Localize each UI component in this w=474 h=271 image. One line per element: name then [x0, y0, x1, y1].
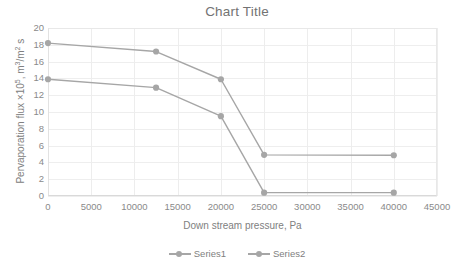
series-line [48, 43, 394, 155]
data-point-marker [153, 85, 159, 91]
legend-item-series2[interactable]: Series2 [248, 248, 305, 259]
chart-container: Chart Title 02468101214161820 0500010000… [0, 0, 474, 271]
data-point-marker [45, 40, 51, 46]
x-axis-tick-labels: 0500010000150002000025000300003500040000… [48, 201, 437, 215]
chart-title: Chart Title [0, 4, 474, 19]
y-axis-title: Pervaporation flux ×105, m3/m2 s [14, 16, 26, 206]
plot-area [48, 28, 437, 196]
data-point-marker [218, 113, 224, 119]
gridline-vertical [437, 28, 438, 196]
chart-legend: Series1Series2 [0, 248, 474, 259]
series-plot [48, 28, 437, 196]
data-point-marker [261, 152, 267, 158]
data-point-marker [261, 190, 267, 196]
gridline-horizontal [48, 196, 437, 197]
data-point-marker [153, 48, 159, 54]
legend-marker-icon [169, 249, 191, 258]
series-2 [45, 40, 397, 158]
legend-label: Series2 [273, 248, 305, 259]
legend-marker-icon [248, 249, 270, 258]
data-point-marker [391, 152, 397, 158]
series-line [48, 79, 394, 192]
data-point-marker [45, 76, 51, 82]
legend-item-series1[interactable]: Series1 [169, 248, 226, 259]
x-tick-label: 45000 [407, 201, 467, 212]
data-point-marker [391, 190, 397, 196]
data-point-marker [218, 76, 224, 82]
series-1 [45, 76, 397, 196]
legend-label: Series1 [194, 248, 226, 259]
x-axis-title: Down stream pressure, Pa [48, 220, 437, 231]
